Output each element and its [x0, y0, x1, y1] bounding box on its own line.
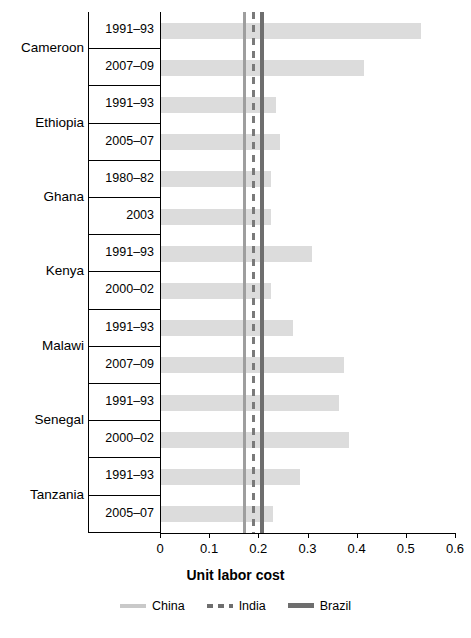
- x-axis-title: Unit labor cost: [0, 567, 471, 583]
- legend-item-china: China: [120, 599, 185, 613]
- period-label-text: 1991–93: [105, 22, 154, 36]
- period-label-text: 2007–09: [105, 59, 154, 73]
- period-label-text: 2007–09: [105, 357, 154, 371]
- period-label: 2000–02: [88, 272, 160, 309]
- period-label-text: 1991–93: [105, 394, 154, 408]
- legend-swatch-brazil: [288, 603, 314, 608]
- period-label-text: 2000–02: [105, 431, 154, 445]
- country-label: Malawi: [0, 338, 84, 353]
- x-tick-mark: [209, 533, 210, 538]
- period-label: 2000–02: [88, 421, 160, 458]
- country-label: Ethiopia: [0, 115, 84, 130]
- reference-line-china: [243, 12, 246, 533]
- period-label-text: 2005–07: [105, 134, 154, 148]
- bar: [160, 97, 276, 113]
- x-tick-label: 0: [140, 541, 180, 556]
- bar: [160, 506, 273, 522]
- period-label: 2007–09: [88, 49, 160, 86]
- period-label-text: 1991–93: [105, 245, 154, 259]
- period-label: 2005–07: [88, 496, 160, 533]
- period-label-text: 1980–82: [105, 171, 154, 185]
- period-label: 1991–93: [88, 310, 160, 347]
- period-label: 1991–93: [88, 384, 160, 421]
- period-label: 2005–07: [88, 124, 160, 161]
- legend-label-india: India: [239, 599, 266, 613]
- country-label: Tanzania: [0, 487, 84, 502]
- bar: [160, 246, 312, 262]
- x-tick-label: 0.4: [337, 541, 377, 556]
- legend-item-brazil: Brazil: [288, 599, 351, 613]
- period-label: 1991–93: [88, 12, 160, 49]
- country-label: Ghana: [0, 189, 84, 204]
- reference-line-brazil: [260, 12, 264, 533]
- legend-label-china: China: [152, 599, 185, 613]
- legend-item-india: India: [207, 599, 266, 613]
- legend-swatch-china: [120, 604, 146, 608]
- x-tick-mark: [357, 533, 358, 538]
- x-tick-label: 0.1: [189, 541, 229, 556]
- period-label-text: 1991–93: [105, 468, 154, 482]
- legend-label-brazil: Brazil: [320, 599, 351, 613]
- x-tick-label: 0.3: [288, 541, 328, 556]
- chart-legend: China India Brazil: [0, 599, 471, 613]
- country-label: Senegal: [0, 412, 84, 427]
- reference-line-india: [252, 12, 255, 533]
- period-label: 1991–93: [88, 458, 160, 495]
- x-tick-mark: [258, 533, 259, 538]
- period-label: 1991–93: [88, 235, 160, 272]
- period-label: 2007–09: [88, 347, 160, 384]
- period-label: 1991–93: [88, 86, 160, 123]
- country-label: Cameroon: [0, 40, 84, 55]
- country-label: Kenya: [0, 263, 84, 278]
- period-label-text: 2005–07: [105, 506, 154, 520]
- x-tick-label: 0.5: [386, 541, 426, 556]
- period-label-text: 2000–02: [105, 282, 154, 296]
- x-tick-mark: [406, 533, 407, 538]
- x-tick-label: 0.2: [238, 541, 278, 556]
- bar: [160, 395, 339, 411]
- x-tick-mark: [308, 533, 309, 538]
- bar: [160, 469, 300, 485]
- x-tick-mark: [160, 533, 161, 538]
- period-label: 1980–82: [88, 161, 160, 198]
- period-label-text: 1991–93: [105, 320, 154, 334]
- bar: [160, 320, 293, 336]
- bar: [160, 23, 421, 39]
- period-label: 2003: [88, 198, 160, 235]
- x-tick-mark: [455, 533, 456, 538]
- period-label-text: 1991–93: [105, 96, 154, 110]
- x-tick-label: 0.6: [435, 541, 471, 556]
- plot-area: [160, 12, 455, 533]
- y-axis-line: [160, 12, 161, 533]
- chart-container: Unit labor cost China India Brazil 1991–…: [0, 0, 471, 638]
- period-label-text: 2003: [126, 208, 154, 222]
- legend-swatch-india: [207, 604, 233, 608]
